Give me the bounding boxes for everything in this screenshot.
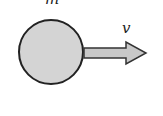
- diagram-canvas: m v: [0, 0, 163, 116]
- ball: [19, 20, 83, 84]
- mass-label: m: [45, 0, 59, 8]
- velocity-arrow-icon: [84, 42, 146, 64]
- velocity-label: v: [122, 19, 131, 37]
